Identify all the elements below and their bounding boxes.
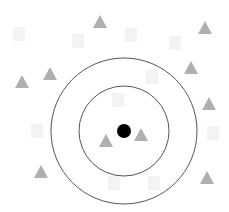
center-dot (117, 124, 131, 138)
square-marker (112, 93, 124, 107)
square-marker (146, 70, 158, 84)
triangle-marker (184, 61, 198, 74)
triangle-marker (34, 165, 48, 178)
triangle-marker (202, 97, 216, 110)
triangle-marker (43, 67, 57, 80)
triangle-marker (134, 128, 148, 141)
center-point (117, 124, 131, 138)
triangle-marker (99, 134, 113, 147)
square-marker (13, 27, 25, 41)
square-marker (148, 176, 160, 190)
triangle-marker (198, 21, 212, 34)
square-marker (31, 124, 43, 138)
triangle-marker (200, 171, 214, 184)
square-marker (108, 176, 120, 190)
square-marker (72, 34, 84, 48)
concentric-rings-diagram (0, 0, 229, 212)
square-marker (169, 36, 181, 50)
triangle-marker (93, 15, 107, 28)
square-marker (125, 28, 137, 42)
triangle-marker (15, 75, 29, 88)
square-marker (207, 126, 219, 140)
